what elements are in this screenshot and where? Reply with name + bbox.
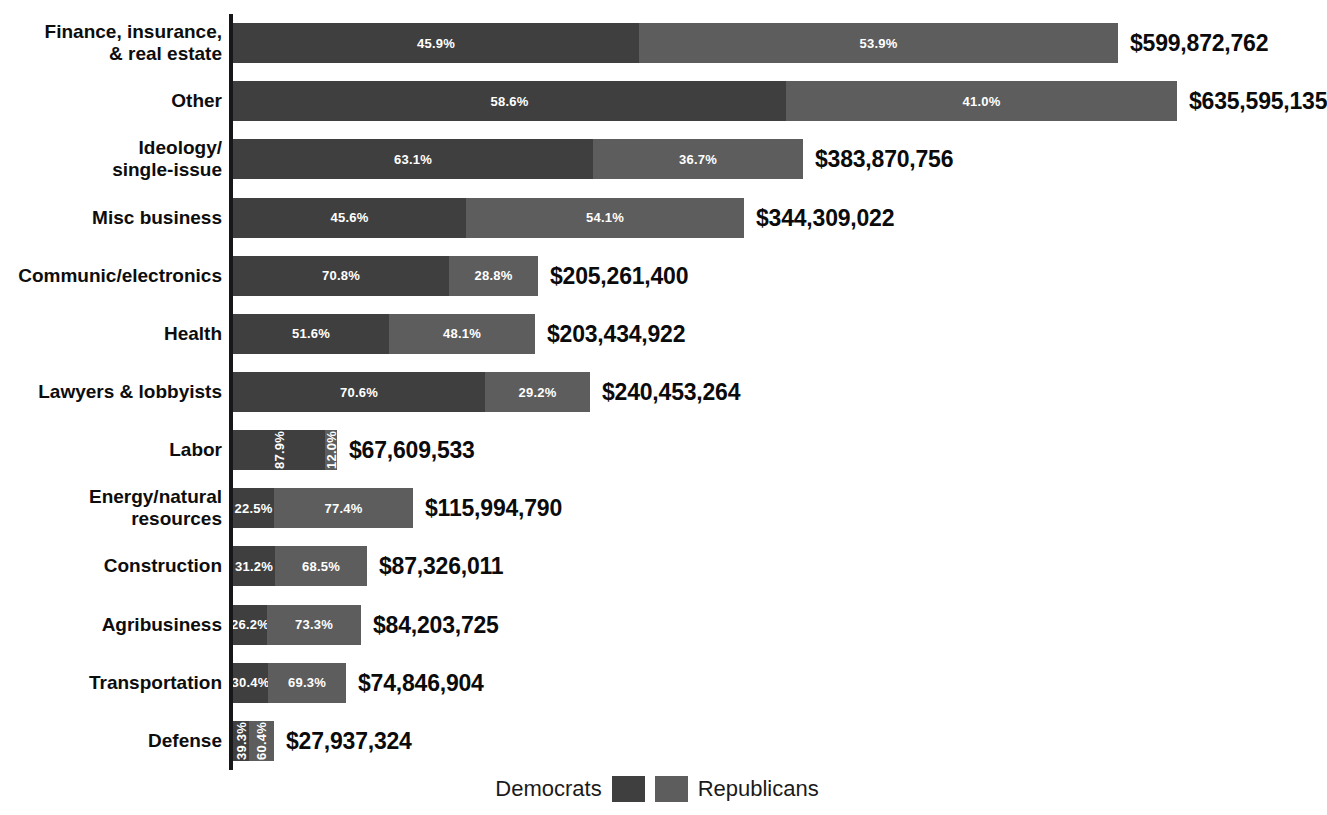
bar-segment-republicans[interactable]: 48.1%: [389, 314, 535, 354]
bar-total-value: $344,309,022: [756, 204, 894, 231]
bar-segment-democrats[interactable]: 45.6%: [233, 198, 466, 238]
segment-percent-democrats: 51.6%: [292, 326, 330, 341]
legend-label-republicans: Republicans: [698, 776, 819, 802]
bar-total-value: $84,203,725: [373, 611, 499, 638]
bar-row: Construction31.2%68.5%$87,326,011: [0, 546, 1314, 586]
segment-percent-republicans: 28.8%: [475, 268, 513, 283]
bar-segment-republicans[interactable]: 60.4%: [249, 721, 274, 761]
segment-percent-republicans: 48.1%: [443, 326, 481, 341]
bar-total-value: $599,872,762: [1130, 30, 1268, 57]
chart-legend: Democrats Republicans: [0, 776, 1314, 802]
bar-segment-republicans[interactable]: 36.7%: [593, 139, 803, 179]
category-label-line: Misc business: [0, 207, 222, 229]
bar-row: Labor87.9%12.0%$67,609,533: [0, 430, 1314, 470]
bar-row: Communic/electronics70.8%28.8%$205,261,4…: [0, 256, 1314, 296]
stacked-bar[interactable]: 26.2%73.3%: [233, 605, 361, 645]
bar-segment-democrats[interactable]: 70.6%: [233, 372, 485, 412]
stacked-bar[interactable]: 63.1%36.7%: [233, 139, 803, 179]
category-label: Communic/electronics: [0, 265, 222, 287]
category-label: Labor: [0, 439, 222, 461]
bar-row: Ideology/single-issue63.1%36.7%$383,870,…: [0, 139, 1314, 179]
bar-segment-democrats[interactable]: 39.3%: [233, 721, 249, 761]
segment-percent-republicans: 29.2%: [519, 385, 557, 400]
stacked-bar[interactable]: 45.6%54.1%: [233, 198, 744, 238]
bar-total-value: $67,609,533: [349, 437, 475, 464]
category-label-line: Communic/electronics: [0, 265, 222, 287]
bar-row: Defense39.3%60.4%$27,937,324: [0, 721, 1314, 761]
category-label: Ideology/single-issue: [0, 137, 222, 181]
legend-swatch-republicans: [655, 776, 688, 802]
bar-segment-republicans[interactable]: 53.9%: [639, 23, 1118, 63]
stacked-bar[interactable]: 51.6%48.1%: [233, 314, 535, 354]
stacked-bar[interactable]: 30.4%69.3%: [233, 663, 346, 703]
bar-segment-democrats[interactable]: 63.1%: [233, 139, 593, 179]
bar-segment-democrats[interactable]: 31.2%: [233, 546, 275, 586]
bar-row: Agribusiness26.2%73.3%$84,203,725: [0, 605, 1314, 645]
stacked-bar[interactable]: 45.9%53.9%: [233, 23, 1118, 63]
bar-segment-republicans[interactable]: 54.1%: [466, 198, 744, 238]
bar-row: Transportation30.4%69.3%$74,846,904: [0, 663, 1314, 703]
bar-row: Health51.6%48.1%$203,434,922: [0, 314, 1314, 354]
category-label: Agribusiness: [0, 614, 222, 636]
plot-area: Finance, insurance,& real estate45.9%53.…: [0, 14, 1314, 770]
bar-segment-democrats[interactable]: 51.6%: [233, 314, 389, 354]
chart-title: [0, 0, 1314, 12]
bar-segment-democrats[interactable]: 70.8%: [233, 256, 449, 296]
bar-segment-democrats[interactable]: 22.5%: [233, 488, 274, 528]
bar-segment-republicans[interactable]: 69.3%: [268, 663, 346, 703]
category-label: Construction: [0, 555, 222, 577]
segment-percent-republicans: 12.0%: [325, 431, 337, 469]
bar-segment-democrats[interactable]: 58.6%: [233, 81, 786, 121]
segment-percent-republicans: 54.1%: [586, 210, 624, 225]
bar-total-value: $74,846,904: [358, 669, 484, 696]
stacked-bar[interactable]: 58.6%41.0%: [233, 81, 1177, 121]
category-label-line: Construction: [0, 555, 222, 577]
category-label-line: Defense: [0, 730, 222, 752]
bar-segment-democrats[interactable]: 30.4%: [233, 663, 268, 703]
bar-segment-republicans[interactable]: 28.8%: [449, 256, 538, 296]
bar-total-value: $635,595,135: [1189, 88, 1327, 115]
category-label: Misc business: [0, 207, 222, 229]
bar-total-value: $27,937,324: [286, 727, 412, 754]
segment-percent-democrats: 70.8%: [322, 268, 360, 283]
stacked-bar[interactable]: 70.8%28.8%: [233, 256, 538, 296]
bar-row: Other58.6%41.0%$635,595,135: [0, 81, 1314, 121]
segment-percent-democrats: 45.9%: [417, 36, 455, 51]
legend-swatch-democrats: [612, 776, 645, 802]
category-label: Transportation: [0, 672, 222, 694]
bar-segment-republicans[interactable]: 77.4%: [274, 488, 413, 528]
segment-percent-republicans: 69.3%: [288, 675, 326, 690]
category-label: Finance, insurance,& real estate: [0, 21, 222, 65]
bar-total-value: $240,453,264: [602, 379, 740, 406]
bar-segment-republicans[interactable]: 12.0%: [325, 430, 337, 470]
bar-total-value: $87,326,011: [379, 553, 503, 580]
stacked-bar[interactable]: 31.2%68.5%: [233, 546, 367, 586]
bar-segment-democrats[interactable]: 45.9%: [233, 23, 639, 63]
bar-row: Misc business45.6%54.1%$344,309,022: [0, 198, 1314, 238]
bar-segment-democrats[interactable]: 26.2%: [233, 605, 267, 645]
stacked-bar[interactable]: 70.6%29.2%: [233, 372, 590, 412]
bar-segment-republicans[interactable]: 68.5%: [275, 546, 367, 586]
bar-segment-republicans[interactable]: 41.0%: [786, 81, 1177, 121]
bar-segment-democrats[interactable]: 87.9%: [233, 430, 325, 470]
bar-row: Energy/naturalresources22.5%77.4%$115,99…: [0, 488, 1314, 528]
category-label-line: Finance, insurance,: [0, 21, 222, 43]
category-label-line: Transportation: [0, 672, 222, 694]
category-label-line: Labor: [0, 439, 222, 461]
segment-percent-democrats: 87.9%: [272, 431, 287, 469]
category-label: Defense: [0, 730, 222, 752]
stacked-bar[interactable]: 22.5%77.4%: [233, 488, 413, 528]
bar-total-value: $205,261,400: [550, 262, 688, 289]
segment-percent-democrats: 45.6%: [331, 210, 369, 225]
category-label-line: Other: [0, 90, 222, 112]
segment-percent-republicans: 36.7%: [679, 152, 717, 167]
stacked-bar[interactable]: 39.3%60.4%: [233, 721, 274, 761]
stacked-bar[interactable]: 87.9%12.0%: [233, 430, 337, 470]
segment-percent-democrats: 26.2%: [233, 617, 267, 632]
segment-percent-republicans: 73.3%: [295, 617, 333, 632]
bar-segment-republicans[interactable]: 73.3%: [267, 605, 361, 645]
category-label: Other: [0, 90, 222, 112]
category-label-line: Agribusiness: [0, 614, 222, 636]
bar-segment-republicans[interactable]: 29.2%: [485, 372, 590, 412]
